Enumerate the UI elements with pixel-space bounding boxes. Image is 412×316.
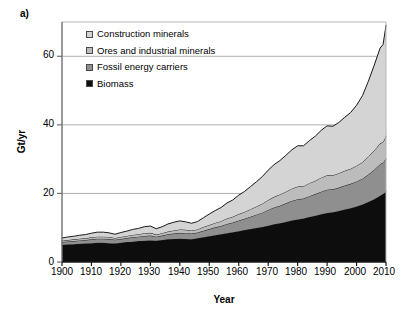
panel-label: a) — [20, 8, 29, 19]
x-tick-label-1930: 1930 — [132, 266, 166, 277]
legend-item-ores-industrial-minerals: Ores and industrial minerals — [86, 46, 215, 56]
figure-panel-a: a) Gt/yr Year 0 20 40 60 1900 1910 1920 … — [0, 0, 412, 316]
legend-label-construction-minerals: Construction minerals — [97, 29, 189, 39]
x-axis-title: Year — [62, 294, 386, 305]
y-tick-label-60: 60 — [28, 49, 54, 60]
legend-item-construction-minerals: Construction minerals — [86, 29, 215, 39]
legend-swatch-biomass — [86, 80, 93, 87]
x-tick-label-2010: 2010 — [367, 266, 401, 277]
y-axis-title: Gt/yr — [16, 112, 27, 172]
x-tick-label-1990: 1990 — [308, 266, 342, 277]
legend-label-fossil-energy-carriers: Fossil energy carriers — [97, 62, 188, 72]
legend-label-biomass: Biomass — [97, 79, 133, 89]
legend-item-biomass: Biomass — [86, 79, 215, 89]
x-tick-label-1960: 1960 — [220, 266, 254, 277]
y-tick-label-20: 20 — [28, 187, 54, 198]
legend-label-ores-industrial-minerals: Ores and industrial minerals — [97, 46, 215, 56]
legend-item-fossil-energy-carriers: Fossil energy carriers — [86, 62, 215, 72]
legend-swatch-ores-industrial-minerals — [86, 47, 93, 54]
y-tick-label-40: 40 — [28, 118, 54, 129]
legend-swatch-construction-minerals — [86, 31, 93, 38]
legend-swatch-fossil-energy-carriers — [86, 64, 93, 71]
legend: Construction minerals Ores and industria… — [86, 29, 215, 89]
